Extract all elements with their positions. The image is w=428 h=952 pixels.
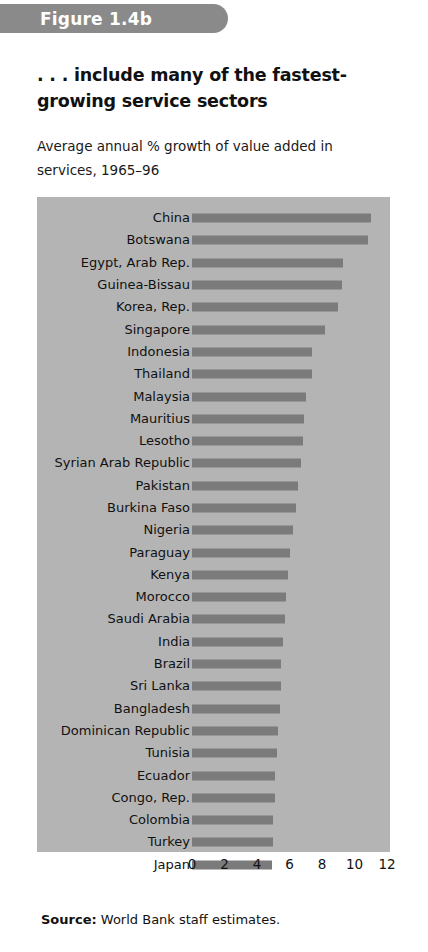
bar	[192, 548, 290, 557]
bar	[192, 726, 278, 735]
bar	[192, 370, 312, 379]
bar	[192, 392, 306, 401]
bar-track	[192, 570, 387, 579]
bar-category-label: Congo, Rep.	[0, 791, 190, 805]
bar	[192, 236, 368, 245]
bar-category-label: China	[0, 211, 190, 225]
bar-row: China	[37, 207, 390, 229]
bar-row: Bangladesh	[37, 698, 390, 720]
bar-track	[192, 303, 387, 312]
bar-category-label: Botswana	[0, 233, 190, 247]
bar-row: Korea, Rep.	[37, 296, 390, 318]
bar-row: Lesotho	[37, 430, 390, 452]
x-axis-ticks: 024681012	[37, 856, 390, 878]
bar-row: Indonesia	[37, 341, 390, 363]
bar-row: India	[37, 631, 390, 653]
x-axis-tick-label: 0	[188, 856, 197, 872]
bar	[192, 749, 277, 758]
bar-row: Thailand	[37, 363, 390, 385]
bar	[192, 481, 298, 490]
bar-track	[192, 214, 387, 223]
bar-track	[192, 615, 387, 624]
bar-category-label: Dominican Republic	[0, 724, 190, 738]
bar	[192, 615, 285, 624]
bar-row: Morocco	[37, 586, 390, 608]
bar-track	[192, 504, 387, 513]
bar-track	[192, 347, 387, 356]
bar-category-label: Colombia	[0, 813, 190, 827]
x-axis-tick-label: 6	[285, 856, 294, 872]
bar	[192, 504, 296, 513]
figure-banner: Figure 1.4b	[0, 4, 228, 33]
bar-track	[192, 749, 387, 758]
bar-category-label: Nigeria	[0, 523, 190, 537]
bar-category-label: Sri Lanka	[0, 679, 190, 693]
bar-row: Syrian Arab Republic	[37, 452, 390, 474]
bar	[192, 437, 303, 446]
bar-track	[192, 325, 387, 334]
bar-track	[192, 838, 387, 847]
bar-row: Botswana	[37, 229, 390, 251]
bar	[192, 214, 371, 223]
bar-track	[192, 816, 387, 825]
bar-category-label: India	[0, 635, 190, 649]
bar-category-label: Morocco	[0, 590, 190, 604]
bar-track	[192, 370, 387, 379]
bar	[192, 570, 288, 579]
bar	[192, 347, 312, 356]
bar-category-label: Mauritius	[0, 412, 190, 426]
bar-row: Burkina Faso	[37, 497, 390, 519]
bar	[192, 637, 283, 646]
bar	[192, 303, 338, 312]
bar-row: Kenya	[37, 564, 390, 586]
figure-headline: . . . include many of the fastest-growin…	[37, 62, 397, 114]
x-axis-tick-label: 10	[346, 856, 363, 872]
bar-track	[192, 392, 387, 401]
x-axis-tick-label: 2	[220, 856, 229, 872]
bar-track	[192, 459, 387, 468]
bar-track	[192, 704, 387, 713]
chart-plot-area: ChinaBotswanaEgypt, Arab Rep.Guinea-Biss…	[37, 197, 390, 852]
bar-track	[192, 481, 387, 490]
bar-track	[192, 236, 387, 245]
bar-row: Tunisia	[37, 742, 390, 764]
bar-row: Dominican Republic	[37, 720, 390, 742]
bar-row: Nigeria	[37, 519, 390, 541]
bar	[192, 593, 286, 602]
bar-category-label: Korea, Rep.	[0, 300, 190, 314]
bar-row: Paraguay	[37, 541, 390, 563]
bar	[192, 682, 281, 691]
bar-category-label: Pakistan	[0, 479, 190, 493]
bar	[192, 325, 325, 334]
source-text: World Bank staff estimates.	[101, 912, 280, 927]
bar	[192, 771, 275, 780]
bar-category-label: Paraguay	[0, 546, 190, 560]
bar-track	[192, 637, 387, 646]
bar-row: Guinea-Bissau	[37, 274, 390, 296]
x-axis-tick-label: 12	[378, 856, 395, 872]
bar-track	[192, 682, 387, 691]
bar-category-label: Ecuador	[0, 769, 190, 783]
figure-subtitle: Average annual % growth of value added i…	[37, 134, 377, 182]
bar-row-list: ChinaBotswanaEgypt, Arab Rep.Guinea-Biss…	[37, 207, 390, 876]
bar-row: Sri Lanka	[37, 675, 390, 697]
bar-category-label: Indonesia	[0, 345, 190, 359]
bar-category-label: Turkey	[0, 835, 190, 849]
bar-track	[192, 548, 387, 557]
x-axis-tick-label: 8	[318, 856, 327, 872]
bar-row: Brazil	[37, 653, 390, 675]
bar-category-label: Burkina Faso	[0, 501, 190, 515]
bar-category-label: Syrian Arab Republic	[0, 456, 190, 470]
bar-category-label: Brazil	[0, 657, 190, 671]
bar-category-label: Thailand	[0, 367, 190, 381]
bar	[192, 258, 343, 267]
bar-track	[192, 660, 387, 669]
bar	[192, 281, 342, 290]
bar-category-label: Tunisia	[0, 746, 190, 760]
bar-row: Turkey	[37, 831, 390, 853]
bar-row: Ecuador	[37, 764, 390, 786]
bar-category-label: Singapore	[0, 323, 190, 337]
bar	[192, 838, 273, 847]
bar-track	[192, 726, 387, 735]
bar-track	[192, 593, 387, 602]
